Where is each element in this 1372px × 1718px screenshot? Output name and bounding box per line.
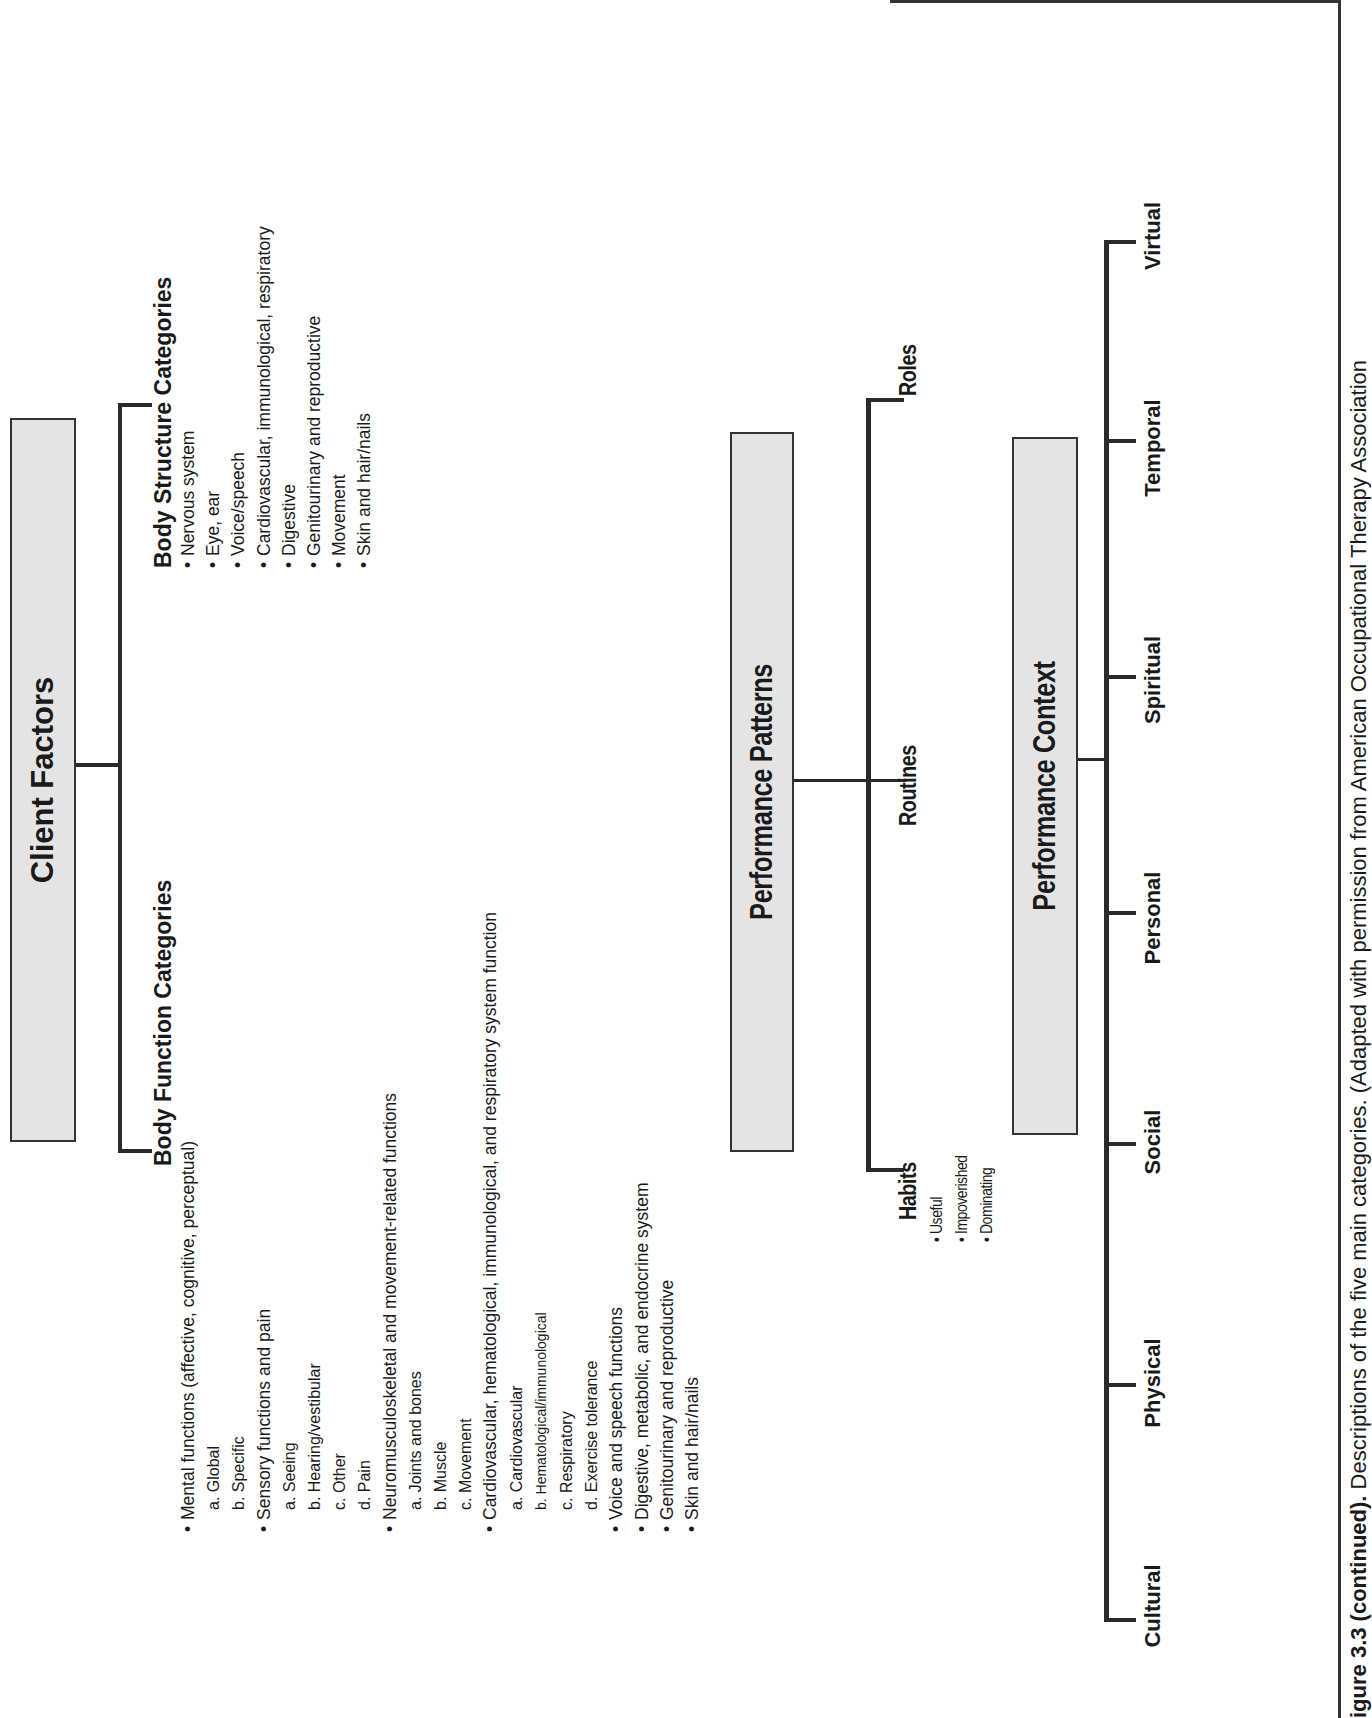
list-item: d. Pain xyxy=(352,912,377,1532)
roles-label: Roles xyxy=(894,333,922,396)
list-item: d. Exercise tolerance xyxy=(579,912,604,1532)
body-structure-list: •Nervous system •Eye, ear •Voice/speech … xyxy=(176,226,378,568)
list-item: c. Other xyxy=(327,912,352,1532)
context-label-cultural: Cultural xyxy=(1140,1564,1166,1647)
list-item: •Skin and hair/nails xyxy=(352,226,377,568)
context-label-social: Social xyxy=(1140,1110,1166,1175)
list-item: a. Joints and bones xyxy=(403,912,428,1532)
routines-label: Routines xyxy=(894,727,922,826)
list-item: •Mental functions (affective, cognitive,… xyxy=(176,912,201,1532)
figure-frame-bottom xyxy=(1338,0,1341,1718)
figure-caption-label: igure 3.3 (continued). xyxy=(1346,1496,1371,1718)
list-item: •Neuromusculoskeletal and movement-relat… xyxy=(378,912,403,1532)
figure-frame-right xyxy=(890,0,1340,3)
list-item: •Genitourinary and reproductive xyxy=(302,226,327,568)
context-label-spiritual: Spiritual xyxy=(1140,636,1166,724)
bracket-tick-roles xyxy=(866,398,904,402)
list-item: b. Muscle xyxy=(428,912,453,1532)
body-structure-heading: Body Structure Categories xyxy=(150,277,177,568)
list-item: •Genitourinary and reproductive xyxy=(655,912,680,1532)
list-item: •Skin and hair/nails xyxy=(680,912,705,1532)
performance-patterns-connector xyxy=(794,779,906,782)
list-item: c. Movement xyxy=(453,912,478,1532)
performance-context-title: Performance Context xyxy=(1027,661,1063,910)
list-item: •Digestive xyxy=(277,226,302,568)
context-label-temporal: Temporal xyxy=(1140,399,1166,496)
habits-label: Habits xyxy=(894,1150,922,1220)
body-function-heading: Body Function Categories xyxy=(150,880,177,1166)
context-tick-temporal xyxy=(1104,439,1136,443)
performance-patterns-title: Performance Patterns xyxy=(744,664,780,920)
list-item: •Cardiovascular, hematological, immunolo… xyxy=(478,912,503,1532)
list-item: •Sensory functions and pain xyxy=(252,912,277,1532)
figure-caption: igure 3.3 (continued). Descriptions of t… xyxy=(1346,360,1372,1718)
context-tick-personal xyxy=(1104,911,1136,915)
bracket-tick-body-function xyxy=(118,1149,152,1153)
list-item: •Nervous system xyxy=(176,226,201,568)
list-item: •Eye, ear xyxy=(201,226,226,568)
context-tick-virtual xyxy=(1104,240,1136,244)
context-label-personal: Personal xyxy=(1140,872,1166,965)
context-tick-cultural xyxy=(1104,1618,1136,1622)
body-function-list: •Mental functions (affective, cognitive,… xyxy=(176,912,705,1532)
client-factors-connector xyxy=(76,763,120,767)
context-label-physical: Physical xyxy=(1140,1338,1166,1427)
performance-context-box: Performance Context xyxy=(1012,437,1078,1135)
list-item: b. Hearing/vestibular xyxy=(302,912,327,1532)
performance-context-bracket xyxy=(1104,240,1109,1622)
bracket-tick-body-structure xyxy=(118,403,152,407)
performance-patterns-box: Performance Patterns xyxy=(730,432,794,1152)
context-label-virtual: Virtual xyxy=(1140,202,1166,270)
list-item: •Digestive, metabolic, and endocrine sys… xyxy=(630,912,655,1532)
performance-patterns-bracket xyxy=(866,398,871,1172)
list-item: • Useful xyxy=(924,1136,949,1242)
list-item: •Movement xyxy=(327,226,352,568)
habits-list: • Useful • Impoverished • Dominating xyxy=(924,1136,999,1242)
list-item: •Voice/speech xyxy=(226,226,251,568)
context-tick-social xyxy=(1104,1142,1136,1146)
figure-caption-text: Descriptions of the five main categories… xyxy=(1346,360,1371,1489)
list-item: a. Seeing xyxy=(277,912,302,1532)
list-item: •Cardiovascular, immunological, respirat… xyxy=(252,226,277,568)
client-factors-title: Client Factors xyxy=(25,677,61,884)
list-item: • Dominating xyxy=(974,1136,999,1242)
client-factors-bracket xyxy=(118,403,122,1153)
context-tick-spiritual xyxy=(1104,675,1136,679)
list-item: •Voice and speech functions xyxy=(604,912,629,1532)
list-item: a. Global xyxy=(201,912,226,1532)
list-item: b. Hematological/immunological xyxy=(529,912,554,1532)
list-item: • Impoverished xyxy=(949,1136,974,1242)
list-item: b. Specific xyxy=(226,912,251,1532)
context-tick-physical xyxy=(1104,1383,1136,1387)
client-factors-box: Client Factors xyxy=(10,418,76,1142)
list-item: a. Cardiovascular xyxy=(504,912,529,1532)
list-item: c. Respiratory xyxy=(554,912,579,1532)
